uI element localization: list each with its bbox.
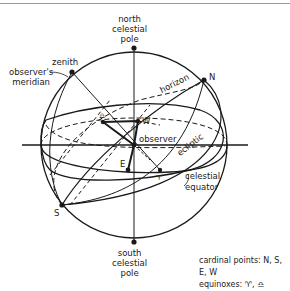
north-pole-point bbox=[131, 45, 136, 50]
aries-point bbox=[158, 168, 162, 172]
libra-symbol: ♎ bbox=[99, 111, 105, 121]
E-label: E bbox=[120, 159, 125, 169]
observer-point bbox=[132, 143, 137, 148]
legend: cardinal points: N, S, E, W equinoxes: ♈… bbox=[199, 255, 290, 291]
meridian-label: observer's meridian bbox=[9, 67, 53, 87]
legend-cardinal: cardinal points: N, S, E, W bbox=[199, 255, 290, 279]
south-pole-label-line2: celestial bbox=[112, 258, 147, 268]
equator-label-line2: equator bbox=[185, 182, 220, 193]
north-pole-label-line3: pole bbox=[112, 34, 147, 44]
north-pole-label-line1: north bbox=[112, 14, 147, 24]
south-pole-label-line1: south bbox=[112, 248, 147, 258]
equator-label: celestial equator bbox=[185, 171, 220, 193]
N-label: N bbox=[209, 72, 215, 82]
meridian-left bbox=[50, 72, 72, 205]
north-pole-label-line2: celestial bbox=[112, 24, 147, 34]
observer-triangle bbox=[103, 121, 138, 145]
W-point bbox=[136, 119, 140, 123]
south-pole-label: south celestial pole bbox=[112, 248, 147, 278]
zenith-point bbox=[69, 69, 74, 74]
S-point bbox=[59, 202, 64, 207]
S-label: S bbox=[54, 208, 59, 218]
legend-equinoxes: equinoxes: ♈, ♎ bbox=[199, 279, 290, 291]
observer-to-E bbox=[128, 145, 134, 170]
E-point bbox=[126, 168, 131, 173]
meridian-label-line2: meridian bbox=[9, 77, 53, 87]
observer-label: observer bbox=[139, 134, 177, 144]
south-pole-point bbox=[131, 239, 136, 244]
W-label: W bbox=[142, 116, 150, 126]
south-pole-label-line3: pole bbox=[112, 268, 147, 278]
equator-label-line1: celestial bbox=[185, 171, 220, 182]
north-pole-label: north celestial pole bbox=[112, 14, 147, 44]
zenith-label: zenith bbox=[52, 57, 78, 67]
aries-symbol: ♈ bbox=[156, 173, 162, 183]
N-point bbox=[201, 77, 206, 82]
meridian-label-line1: observer's bbox=[9, 67, 53, 77]
